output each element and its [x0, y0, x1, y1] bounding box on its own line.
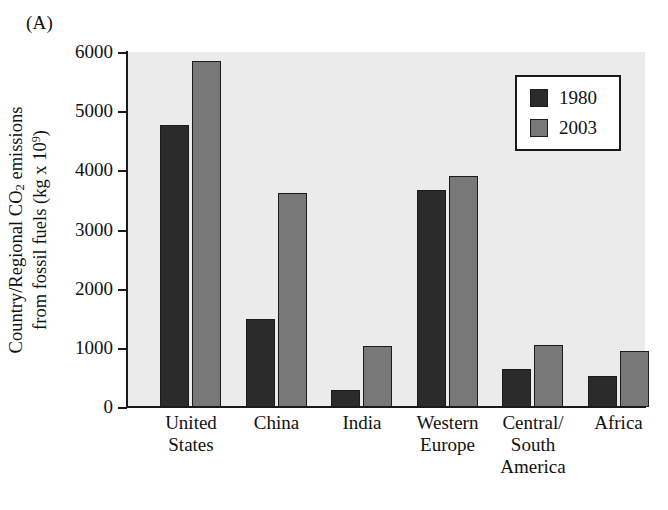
y-axis-title-part2: emissions	[6, 106, 26, 184]
figure-panel-a: (A) Country/Regional CO2 emissions from …	[0, 0, 668, 510]
bar-group	[160, 52, 221, 407]
bar-group	[246, 52, 307, 407]
x-axis-line	[126, 406, 646, 408]
legend-item-2003[interactable]: 2003	[530, 118, 597, 137]
y-axis-line	[126, 51, 128, 408]
legend-label-1980: 1980	[559, 88, 597, 107]
x-axis-label-line: South	[473, 434, 593, 456]
y-axis-title-part4: )	[30, 130, 50, 136]
bar-2003[interactable]	[363, 346, 392, 407]
y-axis-title-subscript: 2	[13, 184, 27, 190]
y-tick-label: 5000	[75, 100, 113, 122]
y-tick-label: 0	[104, 396, 114, 418]
bar-2003[interactable]	[449, 176, 478, 407]
legend-swatch-1980	[530, 89, 548, 107]
bar-group	[331, 52, 392, 407]
x-axis-label: Africa	[559, 412, 668, 434]
panel-label: (A)	[26, 12, 53, 34]
y-tick-label: 1000	[75, 337, 113, 359]
bar-group	[417, 52, 478, 407]
bar-2003[interactable]	[192, 61, 221, 407]
bar-1980[interactable]	[588, 376, 617, 407]
y-axis-title-part1: Country/Regional CO	[6, 190, 26, 353]
bar-1980[interactable]	[331, 390, 360, 407]
bar-2003[interactable]	[534, 345, 563, 407]
bar-1980[interactable]	[160, 125, 189, 407]
legend-label-2003: 2003	[559, 118, 597, 137]
y-axis-title: Country/Regional CO2 emissions from foss…	[0, 52, 56, 407]
legend-swatch-2003	[530, 119, 548, 137]
y-axis-title-part3: from fossil fuels (kg x 10	[30, 142, 50, 330]
y-tick-label: 6000	[75, 41, 113, 63]
y-tick-label: 4000	[75, 159, 113, 181]
bar-1980[interactable]	[502, 369, 531, 407]
x-axis-label-line: America	[473, 456, 593, 478]
y-axis-title-superscript: 9	[29, 136, 43, 142]
bar-2003[interactable]	[620, 351, 649, 407]
y-tick-label: 3000	[75, 219, 113, 241]
legend: 1980 2003	[515, 75, 621, 151]
x-axis-label-line: States	[131, 434, 251, 456]
x-axis-label-line: Africa	[559, 412, 668, 434]
bar-1980[interactable]	[246, 319, 275, 407]
bar-1980[interactable]	[417, 190, 446, 407]
y-tick-label: 2000	[75, 278, 113, 300]
legend-item-1980[interactable]: 1980	[530, 88, 597, 107]
bar-2003[interactable]	[278, 193, 307, 407]
